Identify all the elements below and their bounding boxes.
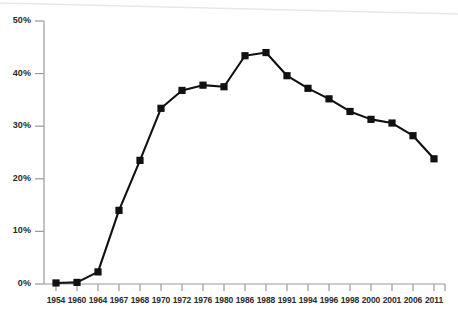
line-chart: 0%10%20%30%40%50%19541960196419671968197… <box>0 0 458 318</box>
y-axis-tick-label: 30% <box>0 120 31 130</box>
y-axis-tick-label: 0% <box>0 278 31 288</box>
data-point-marker <box>430 155 437 162</box>
data-point-marker <box>115 207 122 214</box>
data-point-marker <box>325 95 332 102</box>
data-point-marker <box>388 119 395 126</box>
y-axis-tick-label: 10% <box>0 225 31 235</box>
data-point-marker <box>346 108 353 115</box>
data-point-marker <box>178 87 185 94</box>
series-line <box>56 53 434 283</box>
x-axis-tick-label: 2011 <box>418 295 450 305</box>
data-point-marker <box>157 105 164 112</box>
chart-plot-area <box>0 0 458 318</box>
y-axis-tick-label: 40% <box>0 68 31 78</box>
y-axis-tick-label: 50% <box>0 15 31 25</box>
data-point-marker <box>136 157 143 164</box>
data-point-marker <box>220 83 227 90</box>
data-point-marker <box>367 116 374 123</box>
data-point-marker <box>262 49 269 56</box>
y-axis-tick-label: 20% <box>0 173 31 183</box>
data-point-marker <box>241 52 248 59</box>
data-point-marker <box>94 268 101 275</box>
data-point-marker <box>199 82 206 89</box>
data-point-marker <box>73 279 80 286</box>
data-point-marker <box>409 132 416 139</box>
data-point-marker <box>283 72 290 79</box>
data-point-marker <box>304 85 311 92</box>
data-point-marker <box>52 279 59 286</box>
